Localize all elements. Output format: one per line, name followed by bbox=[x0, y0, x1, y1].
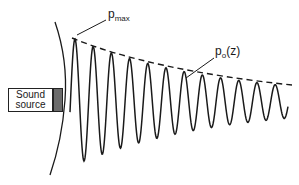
pmax-leader-line bbox=[77, 20, 106, 35]
pmax-symbol: p bbox=[108, 7, 115, 21]
pmax-subscript: max bbox=[115, 14, 130, 23]
po-leader-line bbox=[186, 58, 214, 78]
pmax-label: pmax bbox=[108, 8, 130, 20]
po-argument: (z) bbox=[226, 44, 240, 58]
po-subscript: o bbox=[222, 51, 226, 60]
sound-source-box: Sound source bbox=[8, 88, 53, 112]
sound-source-label-line2: source bbox=[9, 100, 52, 110]
sound-emitter bbox=[53, 88, 63, 112]
po-symbol: p bbox=[215, 44, 222, 58]
damped-wave bbox=[70, 39, 288, 161]
po-label: po(z) bbox=[215, 45, 240, 57]
